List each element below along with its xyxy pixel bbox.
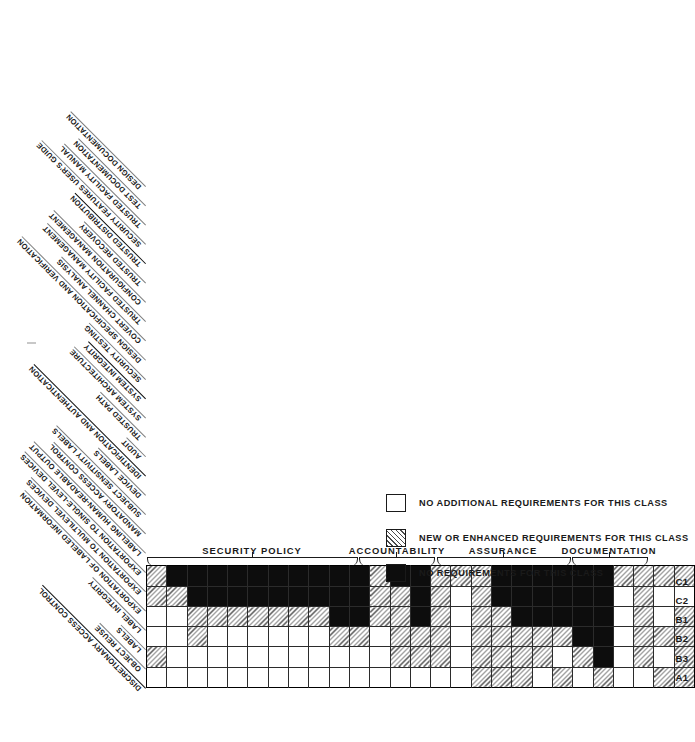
matrix-cell-a1 xyxy=(187,667,207,687)
matrix-cell-b3 xyxy=(431,647,451,667)
matrix-cell-b3 xyxy=(512,647,532,667)
matrix-cell-b2 xyxy=(390,627,410,647)
matrix-cell-b1 xyxy=(593,607,613,627)
matrix-cell-b1 xyxy=(228,607,248,627)
matrix-row xyxy=(349,566,369,688)
matrix-cell-b3 xyxy=(410,647,430,667)
matrix-cell-b3 xyxy=(532,647,552,667)
matrix-cell-b2 xyxy=(309,627,329,647)
class-label-c2: C2 xyxy=(672,590,691,612)
matrix-cell-b1 xyxy=(431,607,451,627)
matrix-cell-b3 xyxy=(390,647,410,667)
matrix-cell-b3 xyxy=(207,647,227,667)
matrix-cell-b1 xyxy=(289,607,309,627)
section-group: SECURITY POLICY xyxy=(146,511,358,567)
matrix-cell-c2 xyxy=(329,586,349,606)
matrix-cell-b1 xyxy=(532,607,552,627)
matrix-row xyxy=(147,566,167,688)
matrix-cell-b1 xyxy=(187,607,207,627)
matrix-row xyxy=(207,566,227,688)
matrix-cell-b1 xyxy=(390,607,410,627)
matrix-cell-b2 xyxy=(451,627,471,647)
matrix-cell-b3 xyxy=(228,647,248,667)
matrix-cell-b1 xyxy=(248,607,268,627)
matrix-cell-b2 xyxy=(370,627,390,647)
matrix-cell-b2 xyxy=(593,627,613,647)
matrix-cell-a1 xyxy=(228,667,248,687)
matrix-cell-b1 xyxy=(147,607,167,627)
matrix-cell-b2 xyxy=(268,627,288,647)
matrix-cell-b2 xyxy=(248,627,268,647)
matrix-cell-b1 xyxy=(207,607,227,627)
matrix-cell-c1 xyxy=(167,566,187,586)
matrix-row xyxy=(268,566,288,688)
matrix-cell-b2 xyxy=(289,627,309,647)
legend-item-req: NO REQUIREMENTS FOR THIS CLASS xyxy=(386,565,689,583)
matrix-cell-c1 xyxy=(187,566,207,586)
matrix-cell-c2 xyxy=(248,586,268,606)
section-group: DOCUMENTATION xyxy=(571,511,648,567)
matrix-cell-a1 xyxy=(613,667,633,687)
matrix-cell-c2 xyxy=(207,586,227,606)
matrix-cell-a1 xyxy=(431,667,451,687)
matrix-cell-c1 xyxy=(207,566,227,586)
matrix-cell-a1 xyxy=(593,667,613,687)
matrix-cell-a1 xyxy=(248,667,268,687)
matrix-row xyxy=(329,566,349,688)
section-brace xyxy=(437,558,571,567)
matrix-cell-b3 xyxy=(471,647,491,667)
matrix-cell-b3 xyxy=(634,647,654,667)
matrix-cell-b2 xyxy=(613,627,633,647)
matrix-cell-c2 xyxy=(228,586,248,606)
section-name: ACCOUNTABILITY xyxy=(349,545,446,556)
section-name: DOCUMENTATION xyxy=(562,545,657,556)
legend-label: NO ADDITIONAL REQUIREMENTS FOR THIS CLAS… xyxy=(419,499,668,509)
matrix-cell-b2 xyxy=(654,627,674,647)
matrix-cell-b3 xyxy=(329,647,349,667)
matrix-cell-c2 xyxy=(187,586,207,606)
matrix-cell-b1 xyxy=(167,607,187,627)
matrix-cell-b2 xyxy=(532,627,552,647)
matrix-cell-b3 xyxy=(248,647,268,667)
matrix-cell-a1 xyxy=(329,667,349,687)
matrix-cell-b3 xyxy=(187,647,207,667)
matrix-cell-b3 xyxy=(289,647,309,667)
matrix-cell-b2 xyxy=(471,627,491,647)
matrix-cell-b1 xyxy=(654,607,674,627)
matrix-cell-b1 xyxy=(410,607,430,627)
matrix-cell-b1 xyxy=(552,607,572,627)
matrix-cell-b3 xyxy=(268,647,288,667)
matrix-cell-c2 xyxy=(289,586,309,606)
matrix-cell-c1 xyxy=(147,566,167,586)
matrix-cell-b1 xyxy=(309,607,329,627)
matrix-cell-b1 xyxy=(471,607,491,627)
matrix-cell-b2 xyxy=(329,627,349,647)
matrix-cell-a1 xyxy=(309,667,329,687)
matrix-cell-c1 xyxy=(289,566,309,586)
matrix-cell-a1 xyxy=(512,667,532,687)
class-label-c1: C1 xyxy=(672,571,691,593)
matrix-cell-a1 xyxy=(289,667,309,687)
matrix-cell-b3 xyxy=(167,647,187,667)
matrix-row xyxy=(187,566,207,688)
matrix-cell-b1 xyxy=(268,607,288,627)
matrix-cell-a1 xyxy=(268,667,288,687)
matrix-cell-a1 xyxy=(471,667,491,687)
matrix-row xyxy=(248,566,268,688)
matrix-cell-b2 xyxy=(512,627,532,647)
matrix-cell-b1 xyxy=(349,607,369,627)
matrix-cell-a1 xyxy=(167,667,187,687)
matrix-cell-b2 xyxy=(167,627,187,647)
matrix-cell-c2 xyxy=(309,586,329,606)
matrix-cell-c1 xyxy=(228,566,248,586)
matrix-cell-b2 xyxy=(410,627,430,647)
matrix-cell-a1 xyxy=(532,667,552,687)
matrix-cell-b2 xyxy=(492,627,512,647)
matrix-row xyxy=(289,566,309,688)
matrix-cell-b3 xyxy=(613,647,633,667)
matrix-cell-b2 xyxy=(634,627,654,647)
matrix-cell-c1 xyxy=(309,566,329,586)
matrix-cell-b3 xyxy=(349,647,369,667)
matrix-cell-b2 xyxy=(187,627,207,647)
